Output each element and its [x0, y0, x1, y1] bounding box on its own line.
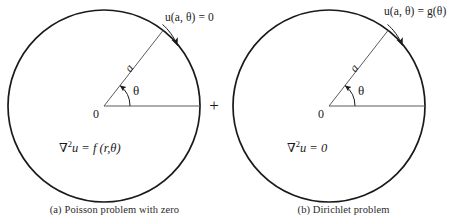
governing-equation-label: ∇2u = f (r,θ): [59, 140, 121, 155]
theta-angle-label: θ: [358, 84, 364, 97]
caption-panel-a: (a) Poisson problem with zero: [0, 204, 229, 216]
angle-arc: [120, 86, 130, 107]
panel-b-diagram: [229, 0, 458, 216]
plus-operator: +: [206, 97, 222, 115]
origin-label: 0: [318, 108, 324, 120]
origin-label: 0: [93, 108, 99, 120]
nabla-symbol: ∇: [287, 141, 296, 155]
panel-a-diagram: [0, 0, 229, 216]
nabla-symbol: ∇: [59, 141, 68, 155]
equation-body: u = f (r,θ): [72, 141, 121, 155]
equation-body: u = 0: [300, 141, 327, 155]
boundary-condition-label: u(a, θ) = g(θ): [384, 6, 446, 18]
angle-arc: [345, 86, 355, 107]
boundary-condition-label: u(a, θ) = 0: [165, 12, 214, 24]
governing-equation-label: ∇2u = 0: [287, 140, 327, 155]
panel-dirichlet-problem: u(a, θ) = g(θ) ∇2u = 0 0 θ a: [229, 0, 458, 216]
caption-panel-b: (b) Dirichlet problem: [229, 204, 458, 216]
figure-superposition-disk-problems: u(a, θ) = 0 ∇2u = f (r,θ) 0 θ a +: [0, 0, 458, 216]
theta-angle-label: θ: [133, 84, 139, 97]
panel-poisson-problem: u(a, θ) = 0 ∇2u = f (r,θ) 0 θ a: [0, 0, 229, 216]
